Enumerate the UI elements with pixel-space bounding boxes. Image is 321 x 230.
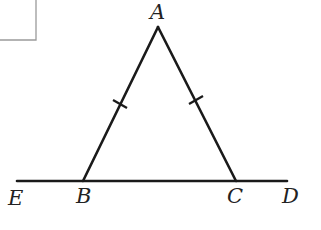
corner-frame — [0, 0, 36, 40]
label-A: A — [148, 0, 165, 24]
side-AC — [158, 27, 236, 181]
label-D: D — [281, 184, 299, 208]
label-E: E — [7, 186, 23, 210]
label-B: B — [75, 184, 91, 208]
triangle-diagram: A B C D E — [0, 0, 321, 230]
label-C: C — [227, 184, 243, 208]
